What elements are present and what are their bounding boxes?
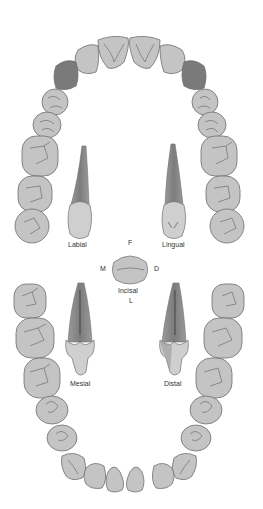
lower-left-first-premolar	[181, 425, 211, 451]
mandibular-arch	[14, 284, 244, 492]
lower-right-central-incisor	[106, 467, 124, 492]
upper-right-first-molar	[22, 136, 58, 176]
lower-left-second-molar	[204, 318, 242, 358]
upper-left-third-molar	[210, 209, 244, 243]
upper-right-first-premolar	[42, 89, 68, 115]
lower-right-third-molar	[14, 284, 46, 318]
label-lingual: Lingual	[162, 241, 185, 248]
lower-right-first-premolar	[47, 425, 77, 451]
maxillary-arch	[15, 36, 244, 243]
dental-diagram: Labial Lingual F M D Incisal L Mesial Di…	[0, 0, 263, 509]
upper-right-canine	[54, 61, 78, 90]
upper-left-second-premolar	[198, 112, 226, 138]
lower-left-second-premolar	[190, 396, 222, 424]
label-distal: Distal	[164, 380, 182, 387]
upper-right-second-premolar	[33, 112, 61, 138]
lower-right-first-molar	[24, 358, 60, 398]
upper-lateral-incisor-left	[160, 45, 185, 74]
upper-right-second-molar	[18, 176, 52, 212]
dental-arches-illustration	[0, 0, 263, 509]
lower-left-central-incisor	[126, 467, 144, 492]
upper-lateral-incisor-right	[75, 45, 99, 74]
label-mesial: Mesial	[70, 380, 90, 387]
lower-left-third-molar	[212, 284, 244, 318]
canine-mesial-view	[66, 283, 95, 375]
upper-right-third-molar	[15, 209, 49, 243]
upper-central-incisor-right	[98, 36, 129, 68]
upper-left-canine	[182, 61, 206, 90]
label-incisal: Incisal	[118, 287, 138, 294]
label-mesial-direction: M	[100, 265, 106, 272]
label-labial: Labial	[68, 241, 87, 248]
upper-left-second-molar	[206, 176, 240, 212]
label-distal-direction: D	[154, 265, 159, 272]
upper-central-incisor-left	[130, 36, 161, 68]
lower-left-first-molar	[196, 358, 232, 398]
upper-left-first-premolar	[192, 89, 218, 115]
lower-right-lateral-incisor	[84, 463, 106, 488]
label-facial-direction: F	[128, 239, 132, 246]
canine-lingual-view	[162, 144, 186, 239]
lower-left-lateral-incisor	[152, 463, 174, 488]
lower-right-second-molar	[16, 318, 54, 358]
label-lingual-direction: L	[129, 297, 133, 304]
canine-incisal-view	[112, 256, 147, 284]
canine-labial-view	[68, 146, 92, 239]
canine-distal-view	[160, 283, 189, 375]
lower-right-second-premolar	[36, 396, 68, 424]
